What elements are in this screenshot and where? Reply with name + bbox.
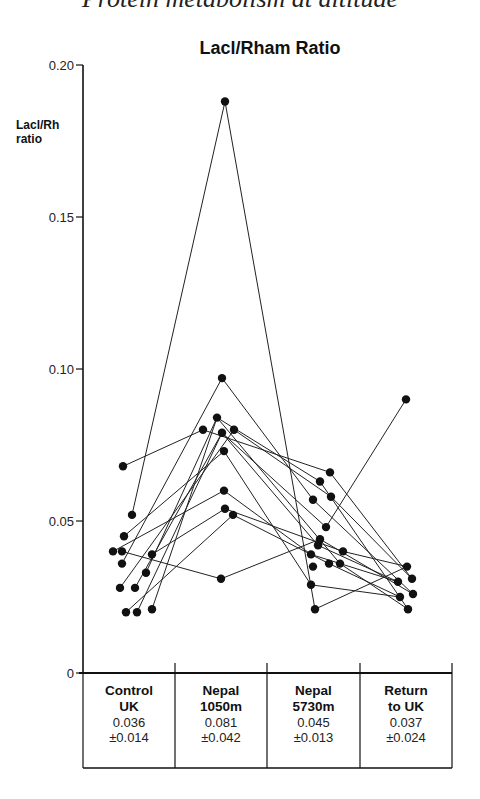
axes: 00.050.100.150.20 <box>49 58 452 768</box>
category-label: Returnto UK <box>360 676 452 715</box>
data-point <box>119 462 127 470</box>
data-point <box>128 511 136 519</box>
data-point <box>316 477 324 485</box>
data-point <box>133 608 141 616</box>
data-point <box>220 447 228 455</box>
data-point <box>339 547 347 555</box>
data-point <box>218 374 226 382</box>
y-tick-label: 0 <box>67 666 74 681</box>
data-point <box>109 547 117 555</box>
category-sd: ±0.013 <box>267 730 360 745</box>
category-label: Nepal1050m <box>175 676 267 715</box>
data-point <box>309 562 317 570</box>
category-mean: 0.045 <box>267 715 360 730</box>
data-point <box>221 505 229 513</box>
data-point <box>116 584 124 592</box>
data-point <box>118 559 126 567</box>
data-point <box>131 584 139 592</box>
category-cell: Returnto UK0.037±0.024 <box>360 676 452 768</box>
data-point <box>311 605 319 613</box>
data-point <box>402 395 410 403</box>
data-point <box>326 468 334 476</box>
subject-line <box>113 491 398 582</box>
category-sd: ±0.042 <box>175 730 267 745</box>
data-point <box>220 486 228 494</box>
data-point <box>142 569 150 577</box>
data-point <box>221 97 229 105</box>
data-point <box>314 541 322 549</box>
subject-line <box>123 430 412 579</box>
subject-line <box>152 418 408 610</box>
data-point <box>403 562 411 570</box>
category-cell: Nepal1050m0.081±0.042 <box>175 676 267 768</box>
data-point <box>336 559 344 567</box>
category-cell: Nepal5730m0.045±0.013 <box>267 676 360 768</box>
category-label: Nepal5730m <box>267 676 360 715</box>
subject-line <box>152 509 407 567</box>
data-point <box>408 575 416 583</box>
data-point <box>118 547 126 555</box>
data-point <box>394 578 402 586</box>
category-sd: ±0.024 <box>360 730 452 745</box>
category-mean: 0.081 <box>175 715 267 730</box>
subject-line <box>120 430 412 588</box>
data-point <box>230 426 238 434</box>
data-point <box>325 559 333 567</box>
y-tick-label: 0.20 <box>49 58 74 73</box>
category-label: ControlUK <box>83 676 175 715</box>
category-mean: 0.037 <box>360 715 452 730</box>
data-point <box>229 511 237 519</box>
category-sd: ±0.014 <box>83 730 175 745</box>
data-point <box>327 493 335 501</box>
category-mean: 0.036 <box>83 715 175 730</box>
data-point <box>322 523 330 531</box>
data-point <box>404 605 412 613</box>
data-point <box>307 550 315 558</box>
data-point <box>199 426 207 434</box>
data-point <box>396 593 404 601</box>
y-tick-label: 0.10 <box>49 362 74 377</box>
subject-lines <box>113 102 413 613</box>
y-tick-label: 0.05 <box>49 514 74 529</box>
data-point <box>218 429 226 437</box>
data-point <box>122 608 130 616</box>
subject-line <box>122 539 413 594</box>
data-point <box>213 413 221 421</box>
data-point <box>148 550 156 558</box>
data-point <box>120 532 128 540</box>
data-point <box>309 496 317 504</box>
category-cell: ControlUK0.036±0.014 <box>83 676 175 768</box>
data-point <box>148 605 156 613</box>
data-point <box>217 575 225 583</box>
y-tick-label: 0.15 <box>49 210 74 225</box>
data-point <box>409 590 417 598</box>
data-point <box>307 581 315 589</box>
